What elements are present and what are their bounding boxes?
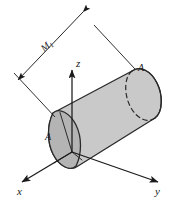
cylinder-diagram-svg [0,0,185,205]
extension-line-right [94,25,135,69]
y-axis-label: y [155,186,160,197]
extension-line-left [14,73,55,117]
figure-container: z x y A A M1 [0,0,185,205]
cross-section-area-label-right: A [138,63,144,73]
y-axis-line [72,152,158,182]
x-axis-label: x [17,186,22,197]
z-axis-label: z [76,58,80,69]
cross-section-area-label-left: A [45,132,51,142]
